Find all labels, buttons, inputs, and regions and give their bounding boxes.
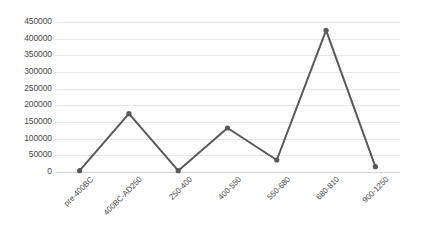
y-axis-labels: 4500004000003500003000002500002000001500… — [0, 0, 52, 229]
x-axis-tick-label: 900-1250 — [361, 175, 391, 205]
y-axis-tick-label: 150000 — [0, 117, 52, 126]
plot-area — [55, 22, 400, 172]
data-point-marker — [176, 168, 181, 173]
data-point-marker — [77, 168, 82, 173]
series-line-1 — [80, 30, 376, 170]
data-point-marker — [274, 157, 279, 162]
y-axis-tick-label: 200000 — [0, 100, 52, 109]
data-point-marker — [323, 28, 328, 33]
line-chart: 4500004000003500003000002500002000001500… — [0, 0, 427, 229]
data-point-marker — [225, 125, 230, 130]
y-axis-tick-label: 350000 — [0, 50, 52, 59]
x-axis-tick-label: 680-810 — [315, 175, 342, 202]
x-axis-labels: pre-400BC400BC-AD250250-400400-550550-68… — [55, 175, 400, 229]
gridline — [55, 172, 400, 173]
x-axis-tick-label: 250-400 — [167, 175, 194, 202]
y-axis-tick-label: 0 — [0, 167, 52, 176]
y-axis-tick-label: 100000 — [0, 134, 52, 143]
y-axis-tick-label: 300000 — [0, 67, 52, 76]
data-point-marker — [126, 111, 131, 116]
y-axis-tick-label: 50000 — [0, 150, 52, 159]
y-axis-tick-label: 250000 — [0, 84, 52, 93]
y-axis-tick-label: 450000 — [0, 17, 52, 26]
x-axis-tick-label: 550-680 — [266, 175, 293, 202]
data-point-marker — [373, 164, 378, 169]
x-axis-tick-label: 400-550 — [216, 175, 243, 202]
series-layer — [55, 22, 400, 172]
x-axis-tick-label: pre-400BC — [62, 175, 95, 208]
y-axis-tick-label: 400000 — [0, 34, 52, 43]
x-axis-tick-label: 400BC-AD250 — [102, 175, 144, 217]
